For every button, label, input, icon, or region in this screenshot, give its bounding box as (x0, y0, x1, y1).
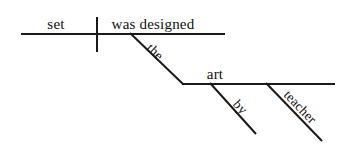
sentence-diagram-svg: set was designed the art by teacher (0, 0, 351, 149)
sentence-diagram-canvas: set was designed the art by teacher (0, 0, 351, 149)
label-prep-object: teacher (281, 87, 320, 127)
label-preposition: by (230, 97, 250, 117)
label-verb: was designed (112, 16, 195, 32)
label-noun-modifier: art (207, 66, 224, 82)
label-subject: set (47, 16, 65, 32)
label-article-modifier: the (144, 40, 167, 63)
